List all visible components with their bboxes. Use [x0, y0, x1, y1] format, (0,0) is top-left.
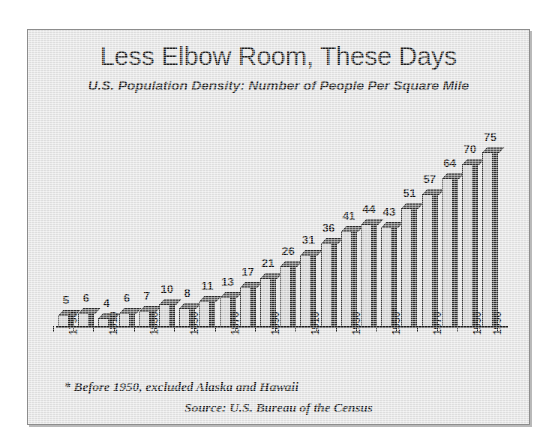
bar-side-face	[411, 204, 417, 326]
bar-value-label: 51	[395, 187, 423, 199]
x-axis-tick	[215, 326, 216, 332]
bar-top-face	[442, 173, 464, 179]
x-axis-label-1930: 1930	[350, 312, 362, 335]
bar-top-face	[260, 273, 282, 279]
bar-side-face	[290, 262, 296, 326]
bar-value-label: 43	[375, 206, 403, 218]
bar-top-face	[341, 226, 363, 232]
x-axis-tick	[174, 326, 175, 332]
footnote-source: Source: U.S. Bureau of the Census	[28, 400, 529, 416]
bar-top-face	[361, 219, 383, 225]
bar-column	[78, 313, 89, 327]
x-axis-label-1790: 1790	[67, 312, 79, 335]
bar-value-label: 31	[294, 234, 322, 246]
x-axis-tick	[295, 326, 296, 332]
bar-column	[119, 313, 130, 327]
bar-column	[482, 152, 493, 327]
bar-column	[199, 301, 210, 327]
bar-column	[240, 287, 251, 327]
bar-value-label: 57	[416, 173, 444, 185]
footnote-asterisk: * Before 1950, excluded Alaska and Hawai…	[64, 379, 299, 395]
bar-side-face	[432, 190, 438, 326]
x-axis-label-1870: 1870	[229, 312, 241, 335]
bar-value-label: 70	[456, 143, 484, 155]
x-axis-tick	[376, 326, 377, 332]
x-axis-label-1970: 1970	[431, 312, 443, 335]
x-axis-label-1810: 1810	[107, 312, 119, 335]
bar-top-face	[462, 159, 484, 165]
bar-top-face	[422, 189, 444, 195]
x-axis-tick	[134, 326, 135, 332]
bar-value-label: 75	[476, 131, 504, 143]
x-axis-label-1830: 1830	[148, 312, 160, 335]
x-axis-label-1990: 1990	[471, 312, 483, 335]
bar-side-face	[331, 239, 337, 326]
bar-side-face	[472, 160, 478, 326]
x-axis-tick	[255, 326, 256, 332]
chart-title: Less Elbow Room, These Days	[28, 41, 529, 72]
bar-top-face	[159, 299, 181, 305]
bar-top-face	[321, 238, 343, 244]
bar-value-label: 64	[436, 157, 464, 169]
x-axis-label-1850: 1850	[188, 312, 200, 335]
bar-column	[462, 164, 473, 327]
chart-frame: Less Elbow Room, These Days U.S. Populat…	[27, 29, 530, 425]
bar-column	[442, 178, 453, 327]
bar-top-face	[119, 308, 141, 314]
bar-side-face	[250, 283, 256, 326]
bar-top-face	[280, 261, 302, 267]
plot-area: 56467108111317212631364144435157647075	[56, 100, 504, 327]
bar-value-label: 21	[254, 257, 282, 269]
bar-top-face	[300, 250, 322, 256]
bar-value-label: 36	[315, 222, 343, 234]
bar-side-face	[492, 148, 498, 326]
bar-column	[321, 243, 332, 327]
bar-column	[361, 224, 372, 327]
x-axis-label-1910: 1910	[309, 312, 321, 335]
x-axis-tick	[457, 326, 458, 332]
bar-column	[401, 208, 412, 327]
bar-top-face	[482, 147, 504, 153]
bar-top-face	[199, 296, 221, 302]
bar-side-face	[452, 174, 458, 326]
x-axis-tick	[336, 326, 337, 332]
x-axis-tick	[93, 326, 94, 332]
bar-top-face	[179, 303, 201, 309]
bar-top-face	[78, 308, 100, 314]
x-axis-label-1950: 1950*	[390, 308, 402, 335]
bar-top-face	[381, 222, 403, 228]
bar-value-label: 26	[274, 245, 302, 257]
bar-side-face	[371, 220, 377, 326]
chart-subtitle: U.S. Population Density: Number of Peopl…	[28, 78, 529, 93]
chart-page: Less Elbow Room, These Days U.S. Populat…	[0, 0, 558, 442]
x-axis-tick	[53, 326, 54, 332]
x-axis-label-1890: 1890	[269, 312, 281, 335]
x-axis-tick	[417, 326, 418, 332]
bar-top-face	[220, 292, 242, 298]
bar-column	[280, 266, 291, 327]
bar-top-face	[401, 203, 423, 209]
x-axis-label-1996: 1996	[491, 312, 503, 335]
bar-top-face	[240, 282, 262, 288]
bar-column	[422, 194, 433, 327]
bar-column	[159, 304, 170, 327]
